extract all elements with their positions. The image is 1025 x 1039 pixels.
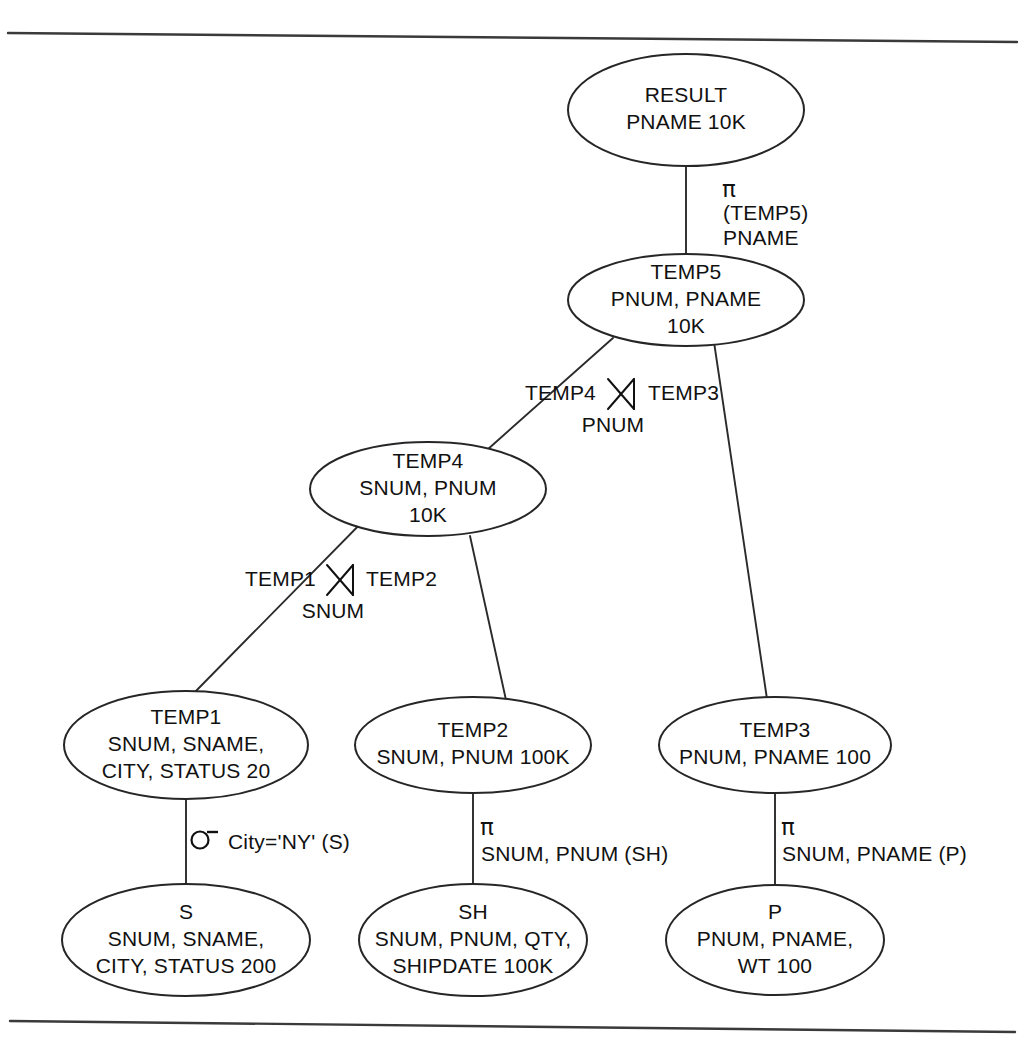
pi-projection-icon: π xyxy=(480,814,494,840)
tree-node-temp1: TEMP1SNUM, SNAME,CITY, STATUS 20 xyxy=(64,691,308,799)
tree-node-temp2: TEMP2SNUM, PNUM 100K xyxy=(355,697,591,793)
node-label-s-line3: CITY, STATUS 200 xyxy=(96,954,277,977)
natural-join-icon xyxy=(608,379,634,409)
node-label-temp2-line1: TEMP2 xyxy=(437,718,508,741)
node-label-temp1-line1: TEMP1 xyxy=(150,705,221,728)
pi-projection-icon: π xyxy=(781,814,795,840)
node-label-temp3-line1: TEMP3 xyxy=(739,718,810,741)
join-right-operand-label: TEMP2 xyxy=(366,567,437,590)
projection-attribute-label-line1: SNUM, PNUM (SH) xyxy=(481,842,668,865)
tree-node-temp5: TEMP5PNUM, PNAME10K xyxy=(568,254,804,346)
node-label-temp5-line1: TEMP5 xyxy=(650,260,721,283)
node-label-p-line2: PNUM, PNAME, xyxy=(697,927,853,950)
node-label-p-line3: WT 100 xyxy=(738,954,812,977)
operator-proj-temp5: π(TEMP5)PNAME xyxy=(722,176,808,249)
tree-node-result: RESULTPNAME 10K xyxy=(568,54,804,166)
node-label-s-line2: SNUM, SNAME, xyxy=(108,927,264,950)
tree-node-p: PPNUM, PNAME,WT 100 xyxy=(666,885,884,995)
node-label-temp4-line2: SNUM, PNUM xyxy=(359,476,496,499)
node-label-p-line1: P xyxy=(768,900,782,923)
tree-node-temp4: TEMP4SNUM, PNUM10K xyxy=(310,442,546,536)
join-left-operand-label: TEMP1 xyxy=(245,567,316,590)
query-execution-tree-diagram: RESULTPNAME 10KTEMP5PNUM, PNAME10KTEMP4S… xyxy=(0,0,1025,1039)
sigma-selection-icon xyxy=(192,832,219,849)
node-label-s-line1: S xyxy=(179,900,193,923)
node-label-sh-line2: SNUM, PNUM, QTY, xyxy=(375,927,572,950)
node-label-temp2-line2: SNUM, PNUM 100K xyxy=(376,745,569,768)
natural-join-icon xyxy=(327,565,353,595)
page-rules xyxy=(8,33,1017,1032)
operator-join-pnum: TEMP4TEMP3PNUM xyxy=(525,379,719,436)
node-label-temp1-line2: SNUM, SNAME, xyxy=(108,732,264,755)
node-label-sh-line1: SH xyxy=(458,900,488,923)
projection-attribute-label-line1: SNUM, PNAME (P) xyxy=(782,842,967,865)
node-label-result-line1: RESULT xyxy=(645,83,728,106)
operator-sel-temp1: City='NY' (S) xyxy=(192,830,351,853)
tree-edge-temp5-temp3 xyxy=(714,342,767,699)
tree-node-s: SSNUM, SNAME,CITY, STATUS 200 xyxy=(62,884,310,996)
node-label-temp5-line3: 10K xyxy=(667,314,705,337)
node-label-temp1-line3: CITY, STATUS 20 xyxy=(102,759,271,782)
operator-proj-temp3: πSNUM, PNAME (P) xyxy=(781,814,967,865)
node-label-temp5-line2: PNUM, PNAME xyxy=(611,287,761,310)
projection-attribute-label-line1: (TEMP5) xyxy=(723,201,808,224)
node-label-sh-line3: SHIPDATE 100K xyxy=(393,954,554,977)
node-label-result-line2: PNAME 10K xyxy=(626,110,746,133)
node-label-temp4-line1: TEMP4 xyxy=(392,449,463,472)
tree-node-temp3: TEMP3PNUM, PNAME 100 xyxy=(659,697,891,793)
selection-condition-label: City='NY' (S) xyxy=(228,830,350,853)
join-right-operand-label: TEMP3 xyxy=(648,381,719,404)
node-label-temp3-line2: PNUM, PNAME 100 xyxy=(679,745,871,768)
tree-edge-temp4-temp2 xyxy=(470,536,506,700)
join-attribute-label: PNUM xyxy=(582,413,645,436)
pi-projection-icon: π xyxy=(722,176,736,202)
join-left-operand-label: TEMP4 xyxy=(525,381,596,404)
join-attribute-label: SNUM xyxy=(302,599,365,622)
top-rule-line xyxy=(8,33,1017,42)
tree-node-sh: SHSNUM, PNUM, QTY,SHIPDATE 100K xyxy=(359,884,587,996)
operator-proj-temp2: πSNUM, PNUM (SH) xyxy=(480,814,668,865)
node-label-temp4-line3: 10K xyxy=(409,503,447,526)
bottom-rule-line xyxy=(10,1021,1015,1032)
diagram-canvas: RESULTPNAME 10KTEMP5PNUM, PNAME10KTEMP4S… xyxy=(0,0,1025,1039)
projection-attribute-label-line2: PNAME xyxy=(723,226,799,249)
